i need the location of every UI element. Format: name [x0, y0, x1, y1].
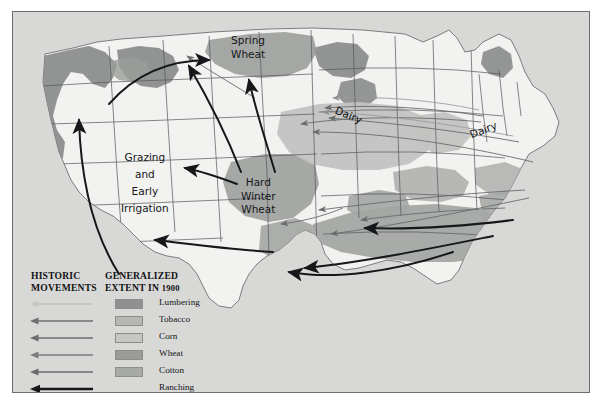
map-legend: HISTORIC MOVEMENTS GENERALIZED EXTENT IN…: [23, 264, 233, 384]
legend-item-lumbering: Lumbering: [107, 298, 229, 312]
legend-swatch-wheat: [115, 350, 143, 360]
legend-swatch-corn: [115, 333, 143, 343]
legend-item-cotton: Cotton: [107, 366, 229, 380]
legend-arrow-cotton: [29, 366, 95, 378]
legend-label-lumbering: Lumbering: [159, 297, 200, 307]
legend-item-wheat: Wheat: [107, 349, 229, 363]
map-page: Spring Wheat Grazing and Early Irrigatio…: [0, 0, 606, 410]
legend-item-tobacco: Tobacco: [107, 315, 229, 329]
legend-swatch-tobacco: [115, 316, 143, 326]
legend-arrow-wheat: [29, 349, 95, 361]
legend-arrow-ranching: [29, 383, 95, 393]
legend-heading-historic-movements: HISTORIC MOVEMENTS: [31, 270, 97, 295]
legend-label-tobacco: Tobacco: [159, 314, 190, 324]
legend-item-ranching: Ranching: [107, 383, 229, 393]
map-plate: Spring Wheat Grazing and Early Irrigatio…: [12, 11, 590, 393]
legend-heading-generalized-extent: GENERALIZED EXTENT IN 1900: [105, 270, 180, 295]
legend-arrow-glyph-tobacco: [29, 315, 95, 327]
legend-swatch-cotton: [115, 367, 143, 377]
legend-label-wheat: Wheat: [159, 348, 183, 358]
legend-arrow-glyph-cotton: [29, 366, 95, 378]
legend-arrow-glyph-wheat: [29, 349, 95, 361]
legend-swatch-lumbering: [115, 299, 143, 309]
legend-arrow-corn: [29, 332, 95, 344]
legend-arrow-glyph-corn: [29, 332, 95, 344]
legend-arrow-glyph-ranching: [29, 383, 95, 393]
legend-label-corn: Corn: [159, 331, 177, 341]
legend-heading-extent-year: 1900: [162, 283, 180, 293]
legend-label-ranching: Ranching: [159, 382, 194, 392]
legend-arrow-glyph-lumbering: [29, 298, 95, 310]
legend-label-cotton: Cotton: [159, 365, 184, 375]
legend-arrow-lumbering: [29, 298, 95, 310]
legend-arrow-tobacco: [29, 315, 95, 327]
legend-item-corn: Corn: [107, 332, 229, 346]
